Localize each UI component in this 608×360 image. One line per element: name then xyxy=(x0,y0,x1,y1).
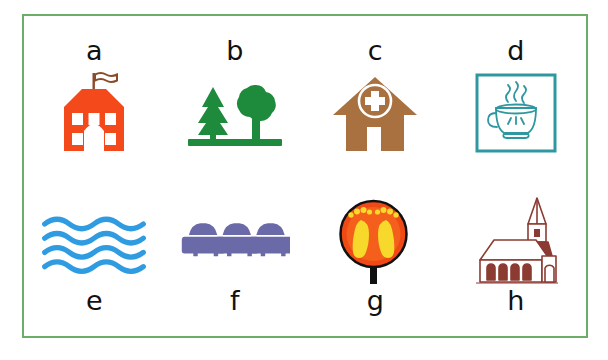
cars-parking-icon xyxy=(180,199,290,285)
pictogram-cell-e[interactable]: e xyxy=(24,176,165,336)
hospital-clinic-icon xyxy=(320,70,430,156)
pictogram-label-g: g xyxy=(367,287,384,314)
figure-page: a xyxy=(0,0,608,360)
pictogram-label-c: c xyxy=(368,37,383,64)
pictogram-cell-c[interactable]: c xyxy=(305,16,446,176)
trees-park-icon xyxy=(180,70,290,156)
pictogram-label-a: a xyxy=(86,37,103,64)
water-waves-icon xyxy=(39,199,149,285)
pictogram-cell-a[interactable]: a xyxy=(24,16,165,176)
pictogram-cell-b[interactable]: b xyxy=(165,16,306,176)
church-icon xyxy=(461,199,571,285)
school-building-icon xyxy=(39,70,149,156)
pictogram-cell-d[interactable]: d xyxy=(446,16,587,176)
pictogram-label-b: b xyxy=(226,37,243,64)
pictogram-cell-g[interactable]: g xyxy=(305,176,446,336)
pictogram-cell-h[interactable]: h xyxy=(446,176,587,336)
coffee-cup-icon xyxy=(461,70,571,156)
figure-frame: a xyxy=(22,14,588,338)
footprints-sign-icon xyxy=(320,199,430,285)
pictogram-grid: a xyxy=(24,16,586,336)
pictogram-cell-f[interactable]: f xyxy=(165,176,306,336)
pictogram-label-e: e xyxy=(86,287,103,314)
pictogram-label-f: f xyxy=(230,287,240,314)
pictogram-label-h: h xyxy=(507,287,524,314)
pictogram-label-d: d xyxy=(507,37,524,64)
